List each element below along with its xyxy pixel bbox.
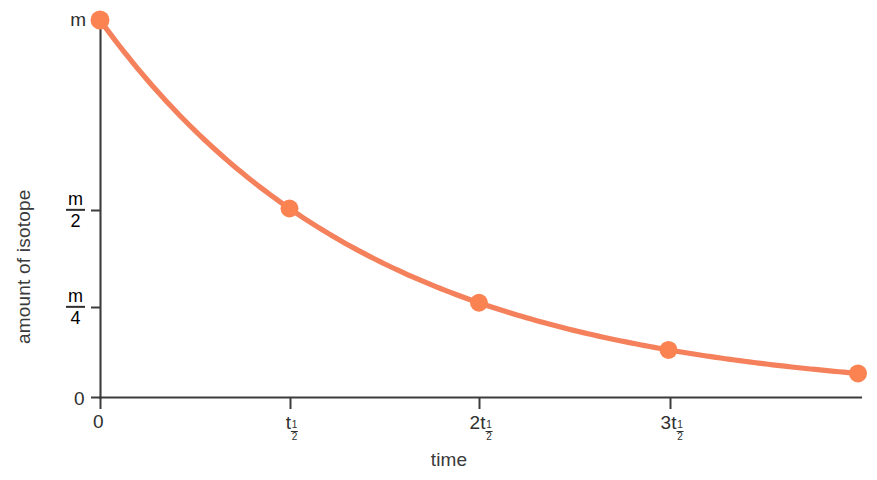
y-tick-label-m-over-2: m 2 bbox=[66, 190, 85, 230]
x-tick-label-2t-half: 2 t 1 2 bbox=[470, 412, 493, 434]
y-tick-label-zero: 0 bbox=[74, 388, 85, 410]
x-tick-label-3t-half: 3 t 1 2 bbox=[661, 412, 684, 434]
decay-chart-figure: amount of isotope time m m 2 m 4 0 0 t 1… bbox=[0, 0, 877, 480]
x-tick-label-t-half: t 1 2 bbox=[286, 412, 298, 434]
x-tick-subscript-half: 1 2 bbox=[485, 420, 492, 442]
subscript-numerator: 1 bbox=[292, 420, 298, 430]
data-point-4 bbox=[849, 364, 867, 382]
decay-curve bbox=[100, 20, 858, 373]
y-tick-m4-denominator: 4 bbox=[68, 309, 82, 327]
data-point-3 bbox=[660, 341, 678, 359]
y-tick-label-m-over-4: m 4 bbox=[66, 287, 85, 327]
data-point-2 bbox=[470, 294, 488, 312]
subscript-numerator: 1 bbox=[677, 420, 683, 430]
subscript-numerator: 1 bbox=[486, 420, 492, 430]
x-tick-subscript-half: 1 2 bbox=[676, 420, 683, 442]
y-tick-m2-denominator: 2 bbox=[68, 212, 82, 230]
x-axis-title: time bbox=[431, 450, 468, 469]
chart-plot-area bbox=[0, 0, 877, 480]
y-tick-label-m: m bbox=[58, 9, 86, 31]
x-tick-subscript-half: 1 2 bbox=[291, 420, 298, 442]
subscript-denominator: 2 bbox=[486, 432, 492, 442]
x-tick-coefficient: 2 bbox=[470, 412, 481, 434]
subscript-denominator: 2 bbox=[292, 432, 298, 442]
x-tick-label-zero: 0 bbox=[93, 411, 104, 433]
data-point-0 bbox=[91, 11, 110, 30]
data-point-1 bbox=[281, 200, 299, 218]
y-axis-title: amount of isotope bbox=[14, 14, 48, 344]
y-tick-m2-numerator: m bbox=[66, 190, 85, 208]
y-tick-m4-numerator: m bbox=[66, 287, 85, 305]
x-tick-coefficient: 3 bbox=[661, 412, 672, 434]
subscript-denominator: 2 bbox=[677, 432, 683, 442]
